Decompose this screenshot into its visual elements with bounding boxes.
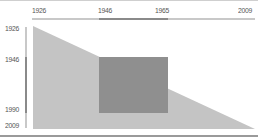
- bottom-border: [0, 135, 258, 137]
- highlight-rect: [99, 57, 168, 113]
- plot-area: [0, 0, 258, 139]
